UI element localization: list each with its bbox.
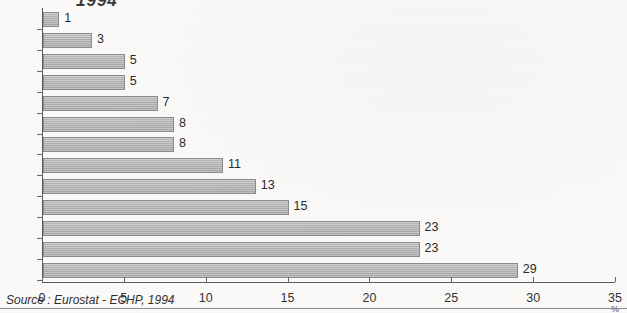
bar-value-label: 8 xyxy=(179,116,186,130)
y-axis-tick xyxy=(37,259,43,260)
bar xyxy=(43,263,518,278)
x-axis-tick-label: 15 xyxy=(281,291,295,305)
x-axis-tick xyxy=(533,277,534,282)
x-axis-tick xyxy=(288,277,289,282)
x-axis-tick-label: 25 xyxy=(444,291,458,305)
y-axis-tick xyxy=(37,71,43,72)
x-axis-tick-label: 20 xyxy=(362,291,376,305)
y-axis-tick xyxy=(37,113,43,114)
x-axis-tick xyxy=(615,277,616,282)
x-axis-line xyxy=(42,282,615,283)
source-note: Source : Eurostat - ECHP, 1994 xyxy=(6,293,175,307)
y-axis-tick xyxy=(37,238,43,239)
bar-value-label: 23 xyxy=(425,241,439,255)
bar-value-label: 11 xyxy=(228,157,241,171)
y-axis-tick xyxy=(37,154,43,155)
bar xyxy=(43,179,256,194)
bar-value-label: 23 xyxy=(425,220,439,234)
y-axis-tick xyxy=(37,134,43,135)
x-axis-tick xyxy=(42,277,43,282)
bar xyxy=(43,75,125,90)
y-axis-tick xyxy=(37,175,43,176)
bar xyxy=(43,200,289,215)
bar xyxy=(43,33,92,48)
bar xyxy=(43,221,420,236)
x-axis-tick xyxy=(369,277,370,282)
bar xyxy=(43,158,223,173)
bar-value-label: 7 xyxy=(163,95,170,109)
bar xyxy=(43,117,174,132)
x-axis-tick xyxy=(451,277,452,282)
bar-value-label: 5 xyxy=(130,74,137,88)
bar-value-label: 5 xyxy=(130,53,137,67)
bar xyxy=(43,12,59,27)
x-axis-tick-label: 35 xyxy=(608,291,622,305)
bar xyxy=(43,54,125,69)
x-axis-tick-label: 30 xyxy=(526,291,540,305)
bar xyxy=(43,137,174,152)
x-axis-tick-label: 10 xyxy=(199,291,213,305)
bar xyxy=(43,96,158,111)
bar-value-label: 3 xyxy=(97,32,104,46)
x-axis-tick xyxy=(124,277,125,282)
bar-value-label: 15 xyxy=(294,199,308,213)
y-axis-tick xyxy=(37,217,43,218)
y-axis-tick xyxy=(37,29,43,30)
bar-value-label: 8 xyxy=(179,136,186,150)
bar-value-label: 13 xyxy=(261,178,275,192)
y-axis-tick xyxy=(37,196,43,197)
bar xyxy=(43,242,420,257)
y-axis-tick xyxy=(37,50,43,51)
source-divider xyxy=(0,308,627,309)
plot-area: NL1DK3B5UK5D7L8F8EU-1211E13IRL15P23I23EL… xyxy=(0,8,627,283)
bar-value-label: 29 xyxy=(523,262,537,276)
x-axis-tick xyxy=(206,277,207,282)
y-axis-tick xyxy=(37,92,43,93)
bar-value-label: 1 xyxy=(64,11,71,25)
